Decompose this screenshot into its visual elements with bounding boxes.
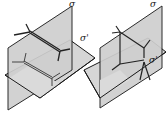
symmetry-planes-diagram: σ σ' σ σ' [0,0,168,131]
right-sigma-label: σ [150,0,157,9]
left-sigma-label: σ [69,0,76,9]
right-sigma-prime-label: σ' [149,55,158,65]
left-figure: σ σ' [5,0,95,110]
right-figure: σ σ' [84,0,166,108]
left-sigma-prime-label: σ' [80,33,89,43]
